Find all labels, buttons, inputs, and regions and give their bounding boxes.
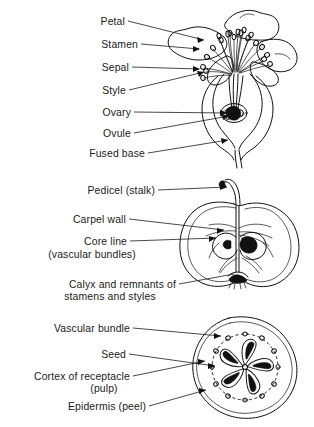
label-cortex: Cortex of receptacle xyxy=(34,371,130,382)
label-epidermis: Epidermis (peel) xyxy=(68,401,146,412)
panel-fruit-longitudinal: Pedicel (stalk) Carpel wall Core line (v… xyxy=(48,179,299,302)
label-ovule: Ovule xyxy=(103,128,131,139)
label-calyx: Calyx and remnants of xyxy=(69,279,176,290)
fruit-trans-leaders xyxy=(129,328,221,406)
flower-stamens xyxy=(200,27,273,81)
carpel-star xyxy=(218,339,275,396)
figure-canvas: Petal Stamen Sepal Style Ovary Ovule Fus… xyxy=(0,0,314,427)
flower-styles xyxy=(229,74,243,108)
label-carpel-wall: Carpel wall xyxy=(73,214,126,225)
label-pedicel: Pedicel (stalk) xyxy=(87,185,155,196)
label-sepal: Sepal xyxy=(102,62,129,73)
label-seed: Seed xyxy=(101,349,126,360)
label-vascular-bundle: Vascular bundle xyxy=(54,323,130,334)
label-cortex-sub: (pulp) xyxy=(90,383,117,394)
label-petal: Petal xyxy=(101,16,125,27)
label-core-line: Core line xyxy=(84,236,127,247)
flower-pedicel xyxy=(235,150,242,168)
botanical-figure: Petal Stamen Sepal Style Ovary Ovule Fus… xyxy=(0,0,314,427)
label-ovary: Ovary xyxy=(103,107,132,118)
label-fused-base: Fused base xyxy=(89,148,145,159)
panel-flower: Petal Stamen Sepal Style Ovary Ovule Fus… xyxy=(89,10,297,168)
label-core-line-sub: (vascular bundles) xyxy=(48,249,136,260)
label-style: Style xyxy=(102,85,126,96)
panel-fruit-transverse: Vascular bundle Seed Cortex of receptacl… xyxy=(34,317,297,419)
label-stamen: Stamen xyxy=(101,39,138,50)
label-calyx-sub: stamens and styles xyxy=(64,291,156,302)
flower-leaders xyxy=(128,21,229,153)
